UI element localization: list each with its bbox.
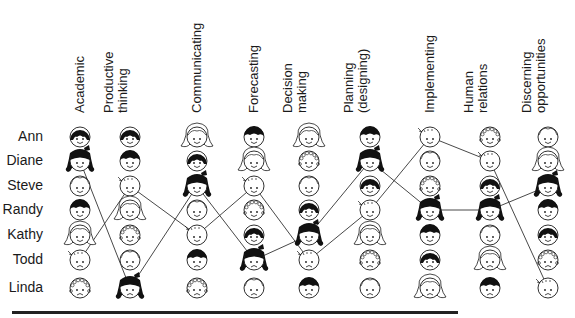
- curly-face-icon: [480, 127, 501, 147]
- dark-bow-face-icon: [240, 244, 269, 271]
- dark-boy-face-icon: [120, 150, 140, 171]
- light-long-hair-face-icon: [181, 123, 213, 147]
- dark-bow-face-icon: [66, 145, 95, 172]
- light-boy-face-icon: [70, 176, 90, 196]
- ranking-diagram: [0, 0, 575, 318]
- dark-bob-face-icon: [299, 200, 319, 220]
- dark-bob-face-icon: [480, 176, 500, 196]
- dark-bow-face-icon: [356, 145, 385, 172]
- curly-face-icon: [244, 200, 265, 220]
- dark-bob-face-icon: [187, 151, 207, 171]
- light-boy-face-icon: [538, 127, 558, 147]
- light-cowlick-face-icon: [418, 127, 440, 147]
- dark-bob-face-icon: [244, 225, 264, 245]
- light-boy-face-icon: [120, 250, 140, 270]
- dark-bob-face-icon: [420, 250, 440, 270]
- dark-boy-face-icon: [538, 199, 558, 220]
- light-cowlick-face-icon: [118, 176, 140, 196]
- dark-boy-face-icon: [480, 277, 500, 298]
- dark-bob-face-icon: [120, 127, 140, 147]
- curly-face-icon: [420, 176, 441, 196]
- light-long-hair-face-icon: [532, 147, 564, 171]
- light-long-hair-face-icon: [414, 274, 446, 298]
- light-long-hair-face-icon: [474, 246, 506, 270]
- light-boy-face-icon: [299, 176, 319, 196]
- light-long-hair-face-icon: [293, 123, 325, 147]
- dark-boy-face-icon: [360, 126, 380, 147]
- light-long-hair-face-icon: [238, 147, 270, 171]
- light-boy-face-icon: [244, 278, 264, 298]
- light-boy-face-icon: [360, 278, 380, 298]
- dark-bow-face-icon: [183, 170, 212, 197]
- light-cowlick-face-icon: [68, 250, 90, 270]
- light-boy-face-icon: [187, 200, 207, 220]
- dark-bob-face-icon: [70, 127, 90, 147]
- dark-bob-face-icon: [538, 225, 558, 245]
- light-long-hair-face-icon: [114, 196, 146, 220]
- curly-face-icon: [360, 250, 381, 270]
- curly-face-icon: [70, 278, 91, 298]
- dark-boy-face-icon: [187, 249, 207, 270]
- dark-bow-face-icon: [534, 170, 563, 197]
- dark-bow-face-icon: [476, 194, 505, 221]
- curly-face-icon: [538, 250, 559, 270]
- light-boy-face-icon: [420, 151, 440, 171]
- baseline-rule: [12, 311, 458, 314]
- curly-face-icon: [299, 151, 320, 171]
- light-long-hair-face-icon: [354, 221, 386, 245]
- curly-face-icon: [120, 225, 141, 245]
- dark-boy-face-icon: [70, 199, 90, 220]
- light-long-hair-face-icon: [64, 221, 96, 245]
- dark-boy-face-icon: [244, 126, 264, 147]
- dark-boy-face-icon: [420, 224, 440, 245]
- light-cowlick-face-icon: [185, 225, 207, 245]
- light-cowlick-face-icon: [536, 278, 558, 298]
- curly-face-icon: [187, 278, 208, 298]
- light-cowlick-face-icon: [478, 151, 500, 171]
- dark-bob-face-icon: [360, 176, 380, 196]
- dark-bow-face-icon: [116, 272, 145, 299]
- dark-bow-face-icon: [416, 194, 445, 221]
- dark-boy-face-icon: [299, 277, 319, 298]
- light-cowlick-face-icon: [297, 250, 319, 270]
- light-boy-face-icon: [480, 225, 500, 245]
